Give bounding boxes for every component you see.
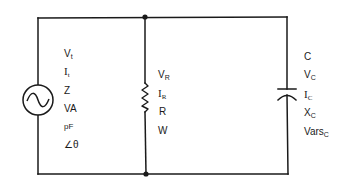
resistor-label-vr: VR [158, 69, 170, 80]
source-label-vt: Vt [64, 48, 73, 59]
circuit-schematic [0, 0, 350, 190]
source-label-angle: ∠θ [64, 139, 79, 150]
source-label-va: VA [64, 103, 77, 114]
capacitor-label-xc: XC [304, 107, 316, 118]
source-label-it: It [64, 66, 70, 77]
resistor-label-r: R [159, 106, 166, 117]
junction-dot-bottom [143, 171, 148, 176]
capacitor-label-varsc: VarsC [304, 126, 329, 137]
junction-dot-top [142, 14, 147, 19]
resistor-icon [142, 83, 148, 112]
middle-wire-lower [145, 112, 146, 174]
capacitor-label-c: C [304, 51, 311, 62]
resistor-label-ir: IR [158, 88, 166, 99]
ac-source-icon [23, 85, 53, 115]
capacitor-label-ic: IC [304, 89, 312, 100]
source-label-pf: pF [64, 121, 73, 132]
resistor-label-w: W [158, 125, 167, 136]
right-wire-lower [287, 95, 288, 174]
top-wire [38, 17, 287, 18]
capacitor-label-vc: VC [304, 69, 316, 80]
source-label-z: Z [64, 85, 70, 96]
